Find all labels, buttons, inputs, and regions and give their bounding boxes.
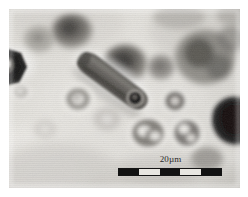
scale-bar-overlay: 20µm <box>118 154 223 180</box>
scale-bar-segment <box>160 169 180 175</box>
scale-bar-label: 20µm <box>118 154 223 165</box>
scale-bar-segment <box>201 169 221 175</box>
figure-root: 20µm <box>0 0 248 197</box>
scale-bar-segment <box>139 169 159 175</box>
scale-bar-segment <box>180 169 200 175</box>
scale-bar-segment <box>119 169 139 175</box>
scale-bar <box>118 168 222 176</box>
